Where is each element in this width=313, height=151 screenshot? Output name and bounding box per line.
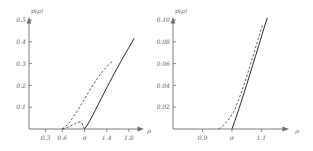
left-x-axis-arrow <box>138 127 145 132</box>
right-y-ticklabel-0: 0.02 <box>157 103 170 110</box>
right-y-axis-title: p(ρ) <box>175 7 188 15</box>
right-x-axis-label: ρ <box>294 127 299 135</box>
left-solid-branch <box>85 38 135 129</box>
chart-panel-right: 0.02 0.04 0.06 0.08 0.10 p(ρ) 0.9 σ 1.1 … <box>157 0 313 151</box>
left-curves <box>62 38 134 129</box>
left-y-axis-title: p(ρ) <box>31 7 44 15</box>
right-x-ticklabel-sigma: σ <box>230 134 235 141</box>
right-y-ticklabel-2: 0.06 <box>157 60 170 67</box>
left-x-ticklabel-4: 1.8 <box>124 134 134 141</box>
left-x-ticklabel-1: 0.6 <box>57 134 67 141</box>
left-y-ticklabel-3: 0.4 <box>16 38 26 45</box>
right-solid-branch <box>232 18 267 129</box>
right-plot-svg: 0.02 0.04 0.06 0.08 0.10 p(ρ) 0.9 σ 1.1 … <box>157 0 313 151</box>
left-y-ticklabel-2: 0.3 <box>16 60 26 67</box>
left-plot-svg: 0.1 0.2 0.3 0.4 0.5 p(ρ) 0.3 0.6 σ 1.4 1… <box>0 0 156 151</box>
left-x-ticklabel-sigma: σ <box>82 134 87 141</box>
right-x-axis-arrow <box>283 127 290 132</box>
right-dashed-branch <box>219 24 263 129</box>
left-y-ticklabel-0: 0.1 <box>16 103 26 110</box>
left-dashed-branch <box>62 61 112 129</box>
left-x-axis-label: ρ <box>146 127 151 135</box>
right-curves <box>219 18 268 129</box>
figure-canvas: 0.1 0.2 0.3 0.4 0.5 p(ρ) 0.3 0.6 σ 1.4 1… <box>0 0 313 151</box>
right-x-ticklabel-0: 0.9 <box>198 134 208 141</box>
left-y-ticklabel-1: 0.2 <box>16 82 26 89</box>
right-x-ticklabel-2: 1.1 <box>257 134 267 141</box>
left-x-ticklabel-3: 1.4 <box>102 134 112 141</box>
left-dashed-lower-branch <box>62 122 84 129</box>
left-y-ticklabel-4: 0.5 <box>16 16 26 23</box>
right-y-ticklabel-1: 0.04 <box>157 82 170 89</box>
chart-panel-left: 0.1 0.2 0.3 0.4 0.5 p(ρ) 0.3 0.6 σ 1.4 1… <box>0 0 156 151</box>
right-y-ticklabel-3: 0.08 <box>157 38 170 45</box>
right-y-ticklabel-4: 0.10 <box>157 16 170 23</box>
left-x-ticklabel-0: 0.3 <box>41 134 51 141</box>
